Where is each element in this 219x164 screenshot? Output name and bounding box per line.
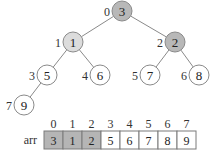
array-cell: 6 (120, 131, 139, 149)
array-cell: 7 (139, 131, 158, 149)
node-value: 2 (172, 35, 179, 50)
node-index: 2 (157, 36, 163, 50)
node-value: 6 (97, 68, 104, 83)
array-cell: 8 (158, 131, 177, 149)
tree-node: 22 (157, 32, 185, 52)
array-cell: 5 (101, 131, 120, 149)
array-cell: 2 (82, 131, 101, 149)
array-index: 2 (89, 117, 95, 131)
array-indices: 01234567 (51, 117, 190, 131)
tree-node: 30 (104, 1, 132, 21)
tree-edge (131, 16, 167, 37)
array-cell: 9 (177, 131, 196, 149)
node-index: 1 (55, 36, 61, 50)
node-index: 3 (29, 69, 35, 83)
array-value: 7 (146, 134, 152, 148)
tree-edge (156, 50, 169, 67)
heap-diagram: 3011225364758697 arr 01234567 31256789 (0, 0, 219, 164)
tree-node: 11 (55, 32, 83, 52)
tree-node: 53 (29, 65, 57, 85)
tree-node: 97 (6, 95, 34, 115)
node-index: 4 (82, 69, 88, 83)
tree-nodes: 3011225364758697 (6, 1, 209, 115)
array-value: 5 (108, 134, 114, 148)
array-index: 3 (108, 117, 114, 131)
tree-edges (30, 16, 193, 97)
tree-edge (181, 50, 193, 67)
node-value: 9 (21, 98, 28, 113)
array-label: arr (24, 133, 37, 147)
array-value: 3 (51, 134, 57, 148)
tree-edge (79, 50, 93, 68)
array-cell: 3 (44, 131, 63, 149)
node-value: 3 (119, 4, 126, 19)
array-value: 9 (184, 134, 190, 148)
array-index: 1 (70, 117, 76, 131)
array-index: 0 (51, 117, 57, 131)
array-value: 8 (165, 134, 171, 148)
tree-edge (30, 83, 41, 97)
node-value: 7 (147, 68, 154, 83)
tree-edge (81, 16, 113, 36)
node-index: 0 (104, 5, 110, 19)
array-index: 7 (184, 117, 190, 131)
node-index: 5 (132, 69, 138, 83)
node-value: 8 (196, 68, 203, 83)
array-cells: 31256789 (44, 131, 196, 149)
array-index: 4 (127, 117, 133, 131)
tree-edge (53, 50, 67, 67)
array-index: 6 (165, 117, 171, 131)
tree-node: 75 (132, 65, 160, 85)
tree-node: 86 (181, 65, 209, 85)
array-value: 6 (127, 134, 133, 148)
node-index: 6 (181, 69, 187, 83)
heap-array: arr 01234567 31256789 (24, 117, 196, 149)
node-value: 1 (70, 35, 77, 50)
array-index: 5 (146, 117, 152, 131)
node-index: 7 (6, 99, 12, 113)
array-value: 2 (89, 134, 95, 148)
node-value: 5 (44, 68, 51, 83)
heap-tree-and-array: 3011225364758697 arr 01234567 31256789 (0, 0, 219, 164)
array-value: 1 (70, 134, 76, 148)
array-cell: 1 (63, 131, 82, 149)
tree-node: 64 (82, 65, 110, 85)
